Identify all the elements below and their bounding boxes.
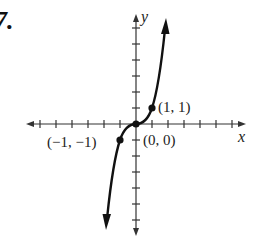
y-axis-label: y xyxy=(139,8,149,26)
point-1-1 xyxy=(148,104,155,111)
point-label-1-1: (1, 1) xyxy=(158,99,191,116)
y-axis-up-arrow-icon xyxy=(133,14,139,22)
point-label-neg1-neg1: (−1, −1) xyxy=(47,134,96,151)
curve-bottom-arrow-icon xyxy=(103,214,112,230)
x-axis-right-arrow-icon xyxy=(238,121,246,127)
point-neg1-neg1 xyxy=(116,136,123,143)
cubic-graph: y x (1, 1) (0, 0) (−1, −1) xyxy=(0,0,262,241)
y-axis-down-arrow-icon xyxy=(133,228,139,236)
x-axis-label: x xyxy=(237,128,245,145)
curve-top-arrow-icon xyxy=(161,18,170,34)
point-origin xyxy=(132,120,139,127)
point-label-origin: (0, 0) xyxy=(143,132,176,149)
x-axis-left-arrow-icon xyxy=(26,121,34,127)
